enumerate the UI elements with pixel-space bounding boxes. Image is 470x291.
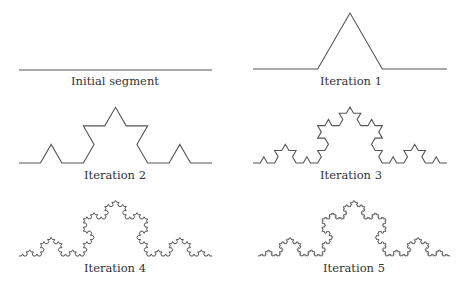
iteration-3-label: Iteration 3	[320, 170, 382, 182]
iteration-4-curve	[19, 200, 212, 256]
iteration-4-label: Iteration 4	[84, 263, 146, 275]
iteration-2-curve	[19, 107, 212, 163]
iteration-2-label: Iteration 2	[84, 170, 146, 182]
iteration-1-curve	[253, 13, 447, 69]
iteration-5-curve	[258, 201, 450, 256]
iteration-5-label: Iteration 5	[323, 263, 385, 275]
iteration-1-label: Iteration 1	[320, 76, 382, 88]
koch-curve-figure	[0, 0, 470, 291]
initial-segment-label: Initial segment	[71, 76, 159, 88]
iteration-3-curve	[253, 107, 447, 163]
